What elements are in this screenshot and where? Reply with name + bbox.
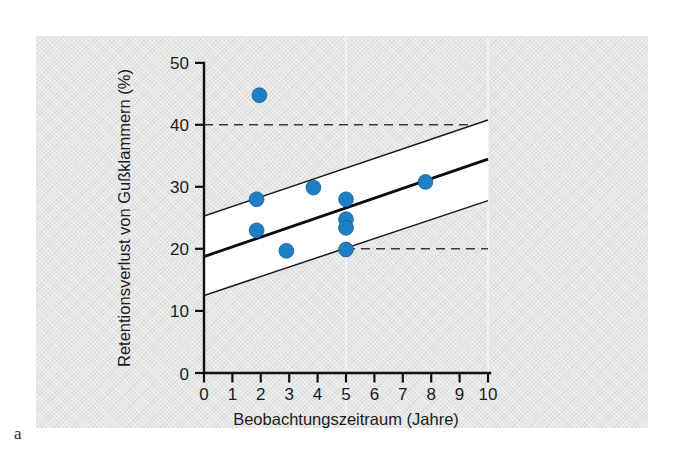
x-tick-labels: 0 1 2 3 4 5 6 7 8 9 10 xyxy=(199,385,497,404)
x-tick-label: 9 xyxy=(455,385,464,404)
panel-letter-label: a xyxy=(14,424,22,444)
x-tick-label: 2 xyxy=(256,385,265,404)
x-tick-label: 0 xyxy=(199,385,208,404)
y-tick-label: 30 xyxy=(170,178,189,197)
data-point xyxy=(418,175,433,190)
x-tick-label: 10 xyxy=(479,385,498,404)
y-tick-label: 0 xyxy=(180,365,189,384)
data-point xyxy=(339,242,354,257)
y-tick-label: 20 xyxy=(170,240,189,259)
data-point xyxy=(279,243,294,258)
y-tick-label: 50 xyxy=(170,54,189,73)
x-tick-label: 1 xyxy=(228,385,237,404)
data-point xyxy=(252,88,267,103)
y-tick-label: 40 xyxy=(170,116,189,135)
data-point xyxy=(249,192,264,207)
y-tick-label: 10 xyxy=(170,302,189,321)
data-point xyxy=(306,180,321,195)
x-axis-title: Beobachtungszeitraum (Jahre) xyxy=(233,410,459,428)
y-axis-ticks xyxy=(195,63,204,373)
x-tick-label: 7 xyxy=(398,385,407,404)
data-point xyxy=(339,220,354,235)
x-axis-ticks xyxy=(204,373,488,383)
figure-root: 0 10 20 30 40 50 0 1 2 3 4 5 6 7 8 9 10 xyxy=(0,0,680,464)
x-tick-label: 3 xyxy=(284,385,293,404)
data-point xyxy=(249,223,264,238)
x-tick-label: 8 xyxy=(426,385,435,404)
scatter-plot: 0 10 20 30 40 50 0 1 2 3 4 5 6 7 8 9 10 xyxy=(0,0,680,464)
y-tick-labels: 0 10 20 30 40 50 xyxy=(170,54,189,383)
x-tick-label: 4 xyxy=(313,385,322,404)
y-axis-title: Retentionsverlust von Gußklammern (%) xyxy=(115,69,133,367)
data-point xyxy=(339,192,354,207)
x-tick-label: 6 xyxy=(370,385,379,404)
x-tick-label: 5 xyxy=(341,385,350,404)
